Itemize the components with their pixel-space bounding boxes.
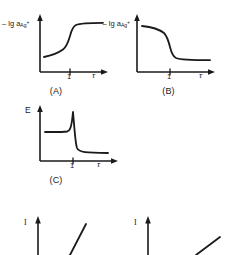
panel-e: I (123, 212, 225, 255)
panel-c: E 1 τ (C) (20, 95, 132, 179)
panel-c-caption: (C) (0, 175, 112, 185)
panel-e-y-axis-label: I (134, 218, 137, 227)
panel-e-y-axis-arrowhead (145, 216, 151, 224)
panel-c-x-tick-label: 1 (70, 161, 74, 170)
panel-b-y-axis-label: – lg aAg+ (26, 19, 130, 28)
panel-a: – lg aAg+ 1 τ (A) (0, 0, 112, 82)
panel-b-plot (112, 0, 225, 82)
panel-b-x-axis-label: τ (199, 71, 202, 80)
panel-b-curve (142, 26, 210, 60)
panel-a-x-axis-label: τ (92, 71, 95, 80)
panel-e-line (196, 237, 220, 255)
panel-b-y-axis-arrowhead (134, 14, 140, 21)
panel-a-y-axis-label-text: – lg a (2, 19, 20, 28)
panel-c-y-axis-arrowhead (37, 105, 43, 112)
panel-a-plot (0, 0, 112, 82)
panel-e-plot (123, 212, 225, 255)
panel-b: – lg aAg+ 1 τ (B) (112, 0, 225, 82)
panel-b-y-axis-label-text: – lg a (103, 19, 121, 28)
panel-d-y-axis-label: I (24, 218, 27, 227)
panel-b-x-tick-label: 1 (167, 72, 171, 81)
panel-c-x-axis-arrowhead (111, 158, 118, 164)
panel-d-line (70, 224, 86, 255)
panel-a-x-axis-arrowhead (101, 69, 108, 75)
panel-c-x-axis-label: τ (97, 160, 100, 169)
panel-b-y-axis-label-superscript: + (127, 19, 130, 25)
panel-c-plot (20, 95, 132, 179)
panel-c-curve (45, 112, 108, 153)
panel-c-y-axis-label: E (25, 105, 31, 115)
panel-d-y-axis-arrowhead (35, 216, 41, 224)
panel-d: I (8, 212, 118, 255)
panel-a-x-tick-label: 1 (67, 72, 71, 81)
panel-b-x-axis-arrowhead (208, 69, 215, 75)
